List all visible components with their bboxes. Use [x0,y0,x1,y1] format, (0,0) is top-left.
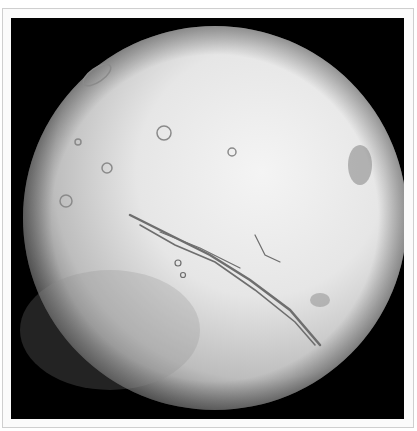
mars-globe [11,18,404,419]
space-background [11,18,404,419]
